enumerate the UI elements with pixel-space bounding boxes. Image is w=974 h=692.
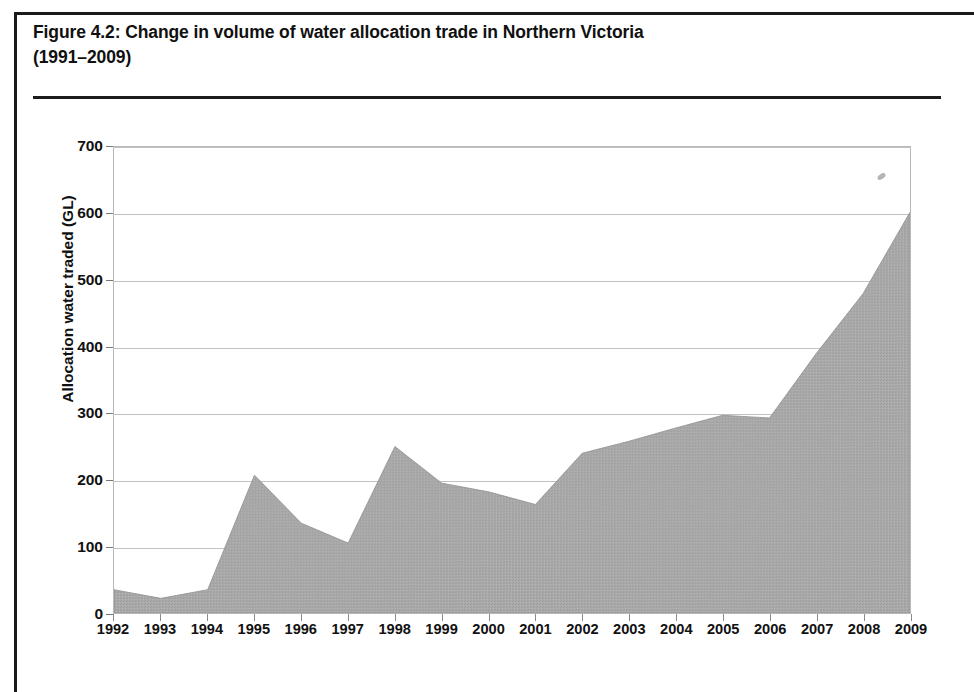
y-tick-mark-500 bbox=[106, 280, 113, 281]
x-tick-mark-2009 bbox=[911, 614, 912, 621]
x-tick-mark-1992 bbox=[113, 614, 114, 621]
y-tick-label-200: 200 bbox=[33, 471, 103, 489]
x-tick-mark-1999 bbox=[442, 614, 443, 621]
x-tick-mark-2008 bbox=[864, 614, 865, 621]
x-tick-label-2009: 2009 bbox=[879, 621, 943, 637]
y-tick-label-700: 700 bbox=[33, 137, 103, 155]
y-tick-mark-200 bbox=[106, 480, 113, 481]
x-tick-mark-2004 bbox=[676, 614, 677, 621]
y-tick-mark-400 bbox=[106, 347, 113, 348]
area-series-allocation-water-traded bbox=[114, 147, 910, 613]
x-tick-mark-1994 bbox=[207, 614, 208, 621]
y-tick-mark-0 bbox=[106, 614, 113, 615]
x-tick-mark-2005 bbox=[723, 614, 724, 621]
x-tick-mark-1997 bbox=[348, 614, 349, 621]
y-tick-label-400: 400 bbox=[33, 338, 103, 356]
x-tick-mark-2000 bbox=[489, 614, 490, 621]
x-tick-mark-1995 bbox=[254, 614, 255, 621]
y-tick-label-500: 500 bbox=[33, 271, 103, 289]
y-tick-label-300: 300 bbox=[33, 404, 103, 422]
x-tick-mark-1993 bbox=[160, 614, 161, 621]
y-tick-mark-100 bbox=[106, 547, 113, 548]
x-tick-mark-1996 bbox=[301, 614, 302, 621]
x-tick-mark-2002 bbox=[582, 614, 583, 621]
plot-frame bbox=[113, 146, 911, 614]
x-tick-mark-1998 bbox=[395, 614, 396, 621]
y-tick-mark-300 bbox=[106, 413, 113, 414]
x-tick-mark-2006 bbox=[770, 614, 771, 621]
y-tick-mark-700 bbox=[106, 146, 113, 147]
x-tick-mark-2003 bbox=[629, 614, 630, 621]
x-tick-mark-2001 bbox=[535, 614, 536, 621]
x-tick-mark-2007 bbox=[817, 614, 818, 621]
y-tick-label-600: 600 bbox=[33, 204, 103, 222]
y-tick-label-100: 100 bbox=[33, 538, 103, 556]
y-tick-mark-600 bbox=[106, 213, 113, 214]
